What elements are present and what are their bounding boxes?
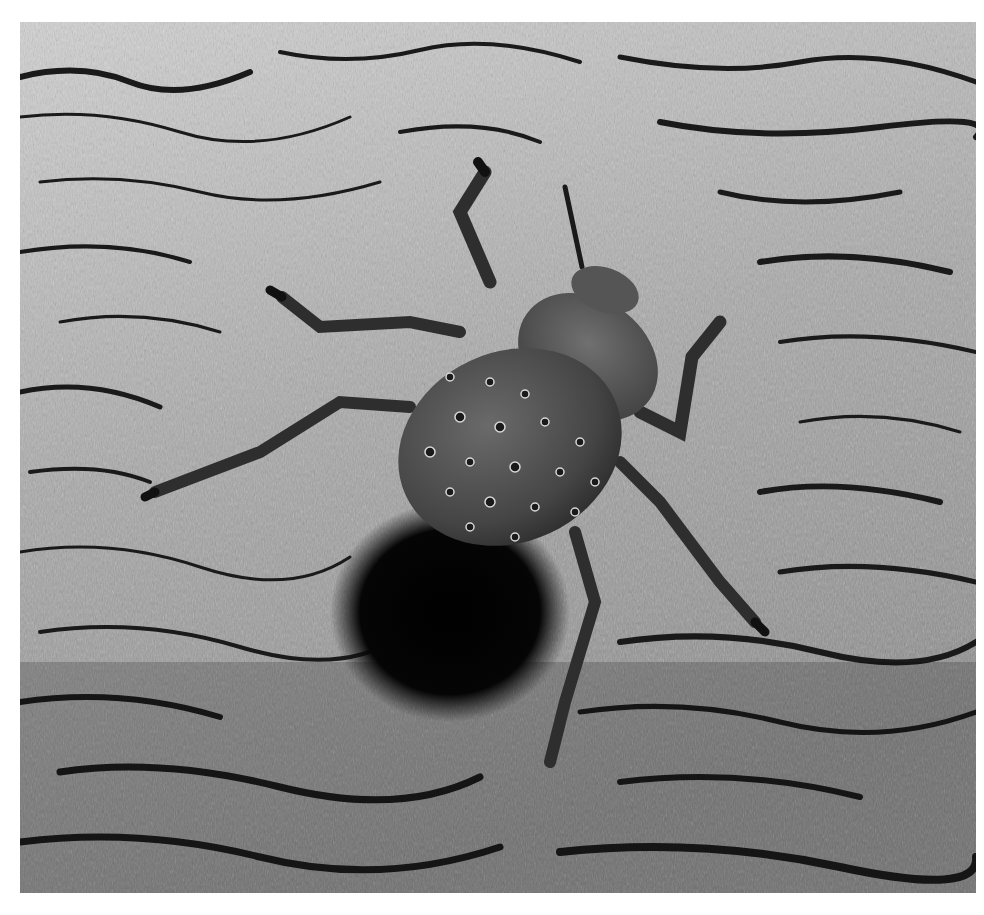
photo-canvas	[20, 22, 976, 893]
beetle-photograph	[20, 22, 976, 893]
